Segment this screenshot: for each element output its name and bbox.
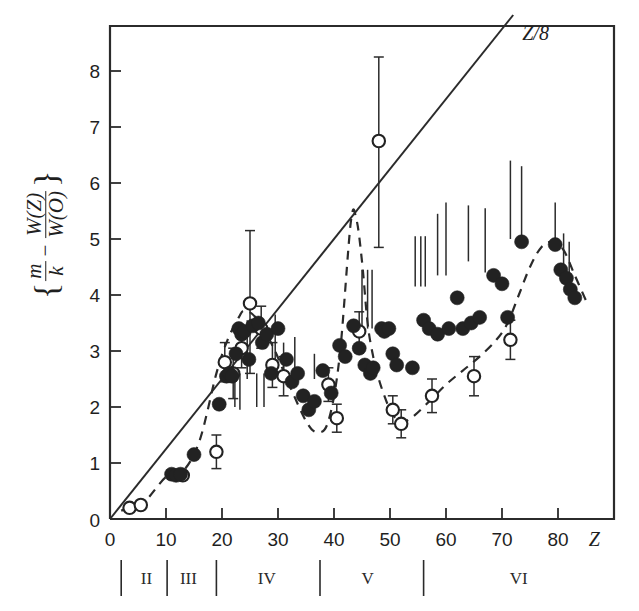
data-point-filled [279,352,293,366]
y-tick-label: 3 [89,341,100,362]
data-point-open [373,135,385,147]
data-point-filled [568,291,582,305]
data-point-filled [271,322,285,336]
data-point-filled [495,277,509,291]
y-tick-label: 4 [89,285,100,306]
period-label: VI [510,569,528,588]
data-point-open [468,370,480,382]
data-point-open [210,446,222,458]
data-point-filled [316,364,330,378]
data-point-filled [212,397,226,411]
data-point-filled [338,350,352,364]
data-point-filled [229,347,243,361]
data-point-open [504,334,516,346]
data-point-filled [242,352,256,366]
data-point-open [135,499,147,511]
period-label: III [180,569,197,588]
y-tick-label: 5 [89,229,100,250]
data-point-filled [366,361,380,375]
data-point-open [331,412,343,424]
data-point-filled [515,235,529,249]
data-point-open [426,390,438,402]
period-label: II [141,569,153,588]
x-tick-label: 20 [211,529,232,550]
data-points [123,135,581,514]
x-tick-label: 10 [155,529,176,550]
y-tick-label: 6 [89,173,100,194]
data-point-open [244,297,256,309]
dashed-trend-curve [121,209,586,510]
x-tick-label: 50 [379,529,400,550]
x-tick-label: 0 [105,529,116,550]
data-point-filled [382,322,396,336]
x-axis-symbol: Z [589,528,601,550]
reference-line [110,15,513,519]
axis-ticks [110,71,558,519]
data-point-filled [390,358,404,372]
data-point-filled [352,341,366,355]
reference-line-label: Z/8 [522,22,549,44]
x-tick-label: 70 [491,529,512,550]
data-point-filled [307,394,321,408]
data-point-filled [548,238,562,252]
y-tick-label: 0 [89,510,100,531]
period-label: IV [258,569,277,588]
x-tick-label: 30 [267,529,288,550]
x-tick-label: 80 [547,529,568,550]
y-tick-label: 2 [89,397,100,418]
figure-container: { m k − W(Z) W(O) } Z/8 1234567800102030… [0,0,639,611]
y-tick-label: 1 [89,453,100,474]
y-tick-label: 8 [89,61,100,82]
data-point-filled [442,322,456,336]
x-tick-label: 40 [323,529,344,550]
data-point-open [395,418,407,430]
data-point-filled [450,291,464,305]
data-point-filled [264,366,278,380]
y-tick-label: 7 [89,117,100,138]
data-point-filled [187,448,201,462]
scatter-plot: Z/8 12345678001020304050607080Z IIIIIIVV… [0,0,639,611]
x-tick-label: 60 [435,529,456,550]
data-point-filled [473,310,487,324]
data-point-filled [174,467,188,481]
period-axis: IIIIIIVVVI [121,560,528,596]
data-point-open [387,404,399,416]
data-point-filled [347,319,361,333]
data-point-filled [501,310,515,324]
reference-line-z8: Z/8 [110,15,549,519]
data-point-filled [225,369,239,383]
data-point-filled [324,386,338,400]
data-point-filled [291,366,305,380]
period-label: V [361,569,374,588]
trend-curve [121,209,586,510]
data-point-filled [405,361,419,375]
